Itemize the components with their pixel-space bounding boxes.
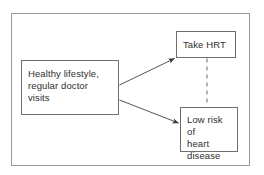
- diagram-canvas: Healthy lifestyle, regular doctor visits…: [0, 0, 264, 175]
- node-low-risk-heart-disease: Low risk of heart disease: [180, 107, 238, 152]
- node-take-hrt: Take HRT: [176, 31, 236, 58]
- node-healthy-lifestyle: Healthy lifestyle, regular doctor visits: [21, 60, 119, 115]
